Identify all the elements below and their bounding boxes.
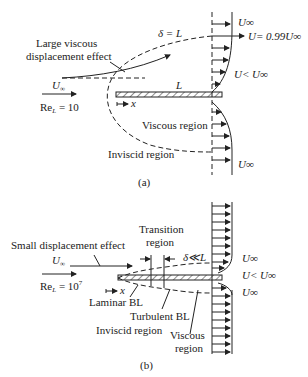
flat-plate-b bbox=[118, 275, 222, 280]
displacement-label-line2: displacement effect bbox=[26, 50, 112, 62]
delta-label-a: δ = L bbox=[158, 27, 182, 39]
plate-length-label: L bbox=[175, 79, 182, 91]
boundary-layer-diagram: U∞ ReL = 10 Large viscous displacement e… bbox=[0, 0, 308, 377]
viscous-label-line1: Viscous bbox=[170, 329, 205, 341]
reynolds-label-a: ReL = 10 bbox=[40, 101, 79, 115]
reynolds-label-b: ReL = 107 bbox=[40, 279, 83, 294]
profile-inner-label-a: U< U∞ bbox=[234, 68, 268, 80]
upper-velocity-profile bbox=[212, 30, 232, 92]
profile-inner-label-b: U< U∞ bbox=[242, 269, 276, 281]
profile-top-label-a: U∞ bbox=[238, 16, 254, 28]
laminar-bl-label: Laminar BL bbox=[89, 296, 143, 308]
small-displacement-label: Small displacement effect bbox=[11, 239, 125, 251]
transition-label-line2: region bbox=[146, 236, 175, 248]
figure-b: U∞ ReL = 107 Small displacement effect T… bbox=[11, 202, 276, 372]
x-label-a: x bbox=[130, 97, 136, 109]
profile-top-label-b: U∞ bbox=[242, 252, 258, 264]
viscous-region-label-a: Viscous region bbox=[142, 119, 208, 131]
viscous-label-line2: region bbox=[175, 342, 204, 354]
delta-label-b: δ≪L bbox=[183, 251, 206, 263]
profile-edge-label-a: U= 0.99U∞ bbox=[248, 30, 301, 42]
figure-a: U∞ ReL = 10 Large viscous displacement e… bbox=[26, 12, 301, 189]
profile-bottom-label-b: U∞ bbox=[242, 286, 258, 298]
freestream-label-a: U∞ bbox=[52, 79, 65, 93]
freestream-label-b: U∞ bbox=[52, 254, 65, 268]
x-label-b: x bbox=[119, 284, 125, 296]
lower-velocity-profile bbox=[212, 102, 232, 150]
inviscid-region-label-a: Inviscid region bbox=[108, 148, 175, 160]
profile-bottom-label-a: U∞ bbox=[238, 158, 254, 170]
displacement-label-line1: Large viscous bbox=[36, 37, 97, 49]
turbulent-bl-label: Turbulent BL bbox=[130, 310, 190, 322]
transition-label-line1: Transition bbox=[139, 223, 184, 235]
caption-a: (a) bbox=[138, 176, 151, 189]
inviscid-region-label-b: Inviscid region bbox=[96, 324, 163, 336]
caption-b: (b) bbox=[140, 359, 153, 372]
